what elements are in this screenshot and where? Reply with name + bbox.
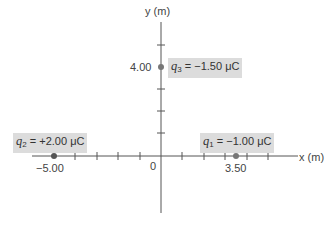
charge-q2-point (51, 153, 57, 159)
charge-q1-label: q1 = −1.00 μC (200, 133, 274, 153)
charge-q1-point (233, 153, 239, 159)
charge-q2-label: q2 = +2.00 μC (13, 133, 87, 153)
coordinate-axes (0, 0, 334, 227)
origin-label: 0 (150, 159, 156, 173)
y-axis-label: y (m) (145, 4, 170, 18)
x-axis-label: x (m) (299, 150, 324, 164)
charge-q3-point (158, 64, 164, 70)
y-tick-label-4: 4.00 (130, 60, 151, 74)
charge-q3-label: q3 = −1.50 μC (168, 58, 242, 78)
x-tick-label-3-5: 3.50 (225, 161, 246, 175)
x-tick-label-neg5: −5.00 (36, 161, 64, 175)
